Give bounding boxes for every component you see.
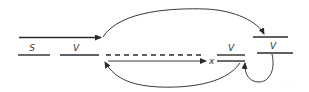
v-label-right: V <box>270 41 277 51</box>
top-arc <box>103 9 264 37</box>
v-slot-right: V <box>257 41 293 53</box>
s-label: S <box>29 43 35 53</box>
diagram-canvas: S V x V V <box>0 0 309 92</box>
speck <box>288 87 289 88</box>
movement-diagram: S V x V V <box>0 0 309 92</box>
loop-arc <box>245 54 273 82</box>
bottom-arc <box>105 62 240 87</box>
x-label: x <box>208 56 215 66</box>
v-label-middle: V <box>228 43 235 53</box>
v-slot: V <box>60 43 99 55</box>
v-label-original: V <box>73 43 80 53</box>
s-slot: S <box>18 43 50 55</box>
x-arrow: x <box>108 56 215 66</box>
v-slot-middle: V <box>217 43 245 61</box>
